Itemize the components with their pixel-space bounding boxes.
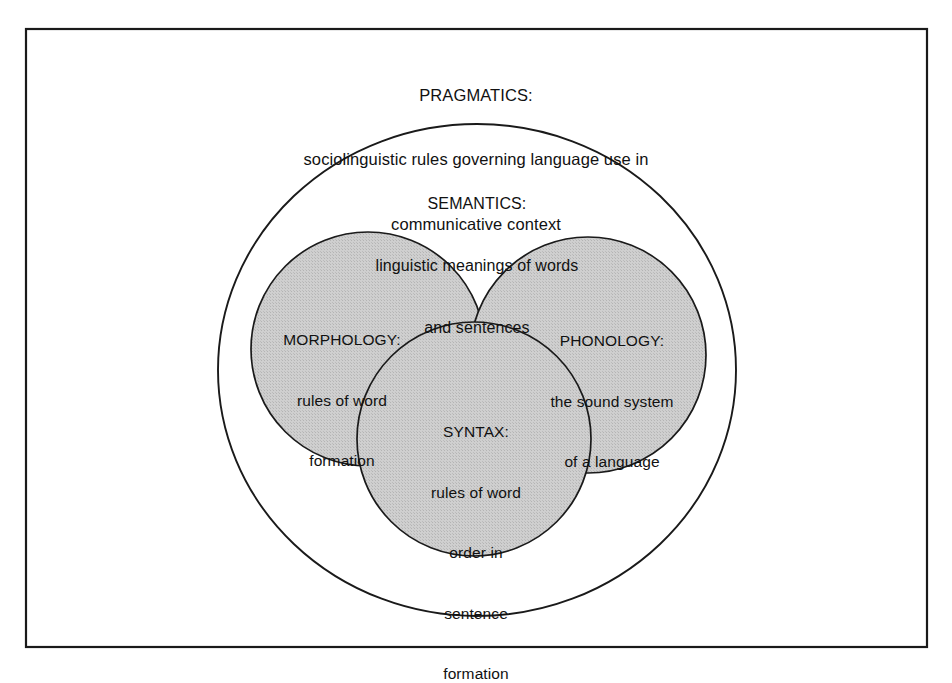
syntax-line-2: order in (398, 543, 554, 563)
phonology-title: PHONOLOGY: (520, 331, 704, 351)
pragmatics-title: PRAGMATICS: (176, 85, 776, 106)
semantics-title: SEMANTICS: (327, 194, 627, 215)
semantics-line-1: linguistic meanings of words (327, 256, 627, 277)
syntax-line-3: sentence (398, 604, 554, 624)
syntax-title: SYNTAX: (398, 422, 554, 442)
syntax-label: SYNTAX: rules of word order in sentence … (398, 382, 554, 683)
morphology-title: MORPHOLOGY: (250, 330, 434, 350)
syntax-line-1: rules of word (398, 483, 554, 503)
syntax-line-4: formation (398, 664, 554, 683)
